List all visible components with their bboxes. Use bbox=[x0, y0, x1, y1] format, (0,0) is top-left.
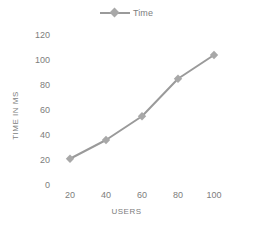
series-line-time bbox=[70, 55, 214, 159]
line-chart: Time TIME IN MS 120 100 80 60 40 20 0 20… bbox=[0, 0, 253, 230]
x-axis-title-label: USERS bbox=[111, 207, 141, 216]
x-tick-label: 40 bbox=[91, 190, 121, 200]
x-tick-label: 60 bbox=[127, 190, 157, 200]
x-axis-ticks: 20 40 60 80 100 bbox=[0, 190, 253, 204]
x-tick-label: 20 bbox=[55, 190, 85, 200]
x-axis-title: USERS bbox=[0, 207, 253, 216]
x-tick-label: 80 bbox=[163, 190, 193, 200]
x-tick-label: 100 bbox=[199, 190, 229, 200]
data-point-marker bbox=[66, 155, 74, 163]
